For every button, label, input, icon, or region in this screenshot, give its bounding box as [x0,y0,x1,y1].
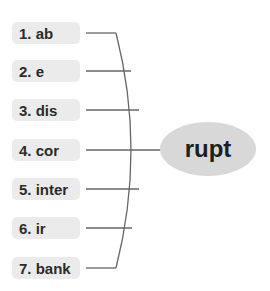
prefix-label-text: 3. dis [19,102,57,119]
prefix-label-5: 5. inter [12,178,80,200]
prefix-label-text: 5. inter [19,181,68,198]
prefix-label-2: 2. e [12,60,80,82]
prefix-label-1: 1. ab [12,22,80,44]
root-word: rupt [160,122,256,176]
prefix-label-text: 6. ir [19,220,46,237]
prefix-label-text: 2. e [19,63,44,80]
prefix-label-7: 7. bank [12,257,80,279]
prefix-label-text: 4. cor [19,142,59,159]
prefix-label-3: 3. dis [12,99,80,121]
prefix-label-text: 1. ab [19,25,53,42]
prefix-label-6: 6. ir [12,217,80,239]
prefix-label-4: 4. cor [12,139,80,161]
prefix-label-text: 7. bank [19,260,71,277]
